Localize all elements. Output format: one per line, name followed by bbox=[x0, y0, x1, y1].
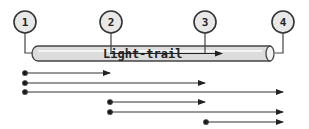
connection-2-3 bbox=[108, 100, 205, 105]
svg-text:2: 2 bbox=[108, 16, 115, 29]
light-trail-diagram: Light-trail 1 2 3 4 bbox=[0, 0, 309, 129]
svg-text:4: 4 bbox=[280, 16, 287, 29]
connection-1-3 bbox=[23, 81, 205, 86]
node-2: 2 bbox=[100, 11, 122, 33]
connection-arrows bbox=[23, 71, 283, 125]
connection-3-4 bbox=[204, 120, 283, 125]
node-3: 3 bbox=[194, 11, 216, 33]
light-trail-label: Light-trail bbox=[103, 47, 182, 61]
node-4: 4 bbox=[272, 11, 294, 33]
svg-text:3: 3 bbox=[202, 16, 209, 29]
svg-text:1: 1 bbox=[22, 16, 29, 29]
connection-1-4 bbox=[23, 90, 283, 95]
connection-1-2 bbox=[23, 71, 110, 76]
node-1: 1 bbox=[14, 11, 36, 33]
connection-2-4 bbox=[108, 110, 283, 115]
